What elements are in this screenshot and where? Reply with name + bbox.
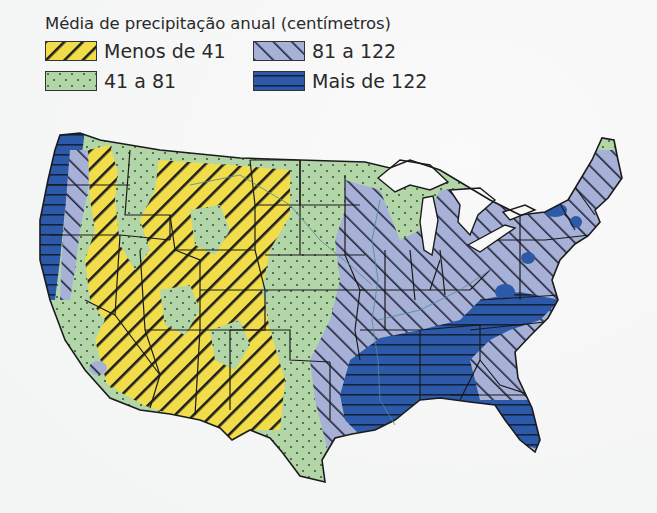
lined-swatch-icon — [253, 71, 305, 91]
region-mais-de-122-patch — [570, 216, 582, 228]
legend-label: Menos de 41 — [104, 40, 226, 62]
map-legend: Média de precipitação anual (centímetros… — [45, 14, 453, 93]
region-81-a-122-patch — [89, 361, 107, 375]
dry-hatch-swatch-icon — [45, 41, 97, 61]
legend-title: Média de precipitação anual (centímetros… — [45, 14, 453, 33]
region-mais-de-122-patch — [521, 252, 535, 264]
legend-item-menos-de-41: Menos de 41 — [45, 39, 253, 63]
legend-label: 41 a 81 — [104, 70, 176, 92]
legend-item-41-a-81: 41 a 81 — [45, 69, 253, 93]
legend-item-81-a-122: 81 a 122 — [253, 39, 453, 63]
precipitation-regions — [0, 118, 657, 513]
legend-label: 81 a 122 — [312, 40, 396, 62]
wet-hatch-swatch-icon — [253, 41, 305, 61]
us-precipitation-map — [0, 118, 657, 513]
legend-item-mais-de-122: Mais de 122 — [253, 69, 453, 93]
legend-label: Mais de 122 — [312, 70, 427, 92]
dotted-swatch-icon — [45, 71, 97, 91]
